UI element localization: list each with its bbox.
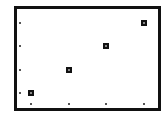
data-point-marker bbox=[66, 67, 72, 73]
x-tick-mark bbox=[143, 103, 145, 105]
plot-frame bbox=[14, 6, 161, 111]
y-tick-mark bbox=[19, 22, 21, 24]
y-tick-mark bbox=[19, 69, 21, 71]
x-tick-mark bbox=[105, 103, 107, 105]
x-tick-mark bbox=[30, 103, 32, 105]
data-point-marker bbox=[141, 20, 147, 26]
data-point-marker bbox=[103, 43, 109, 49]
x-tick-mark bbox=[68, 103, 70, 105]
y-tick-mark bbox=[19, 92, 21, 94]
y-tick-mark bbox=[19, 45, 21, 47]
data-point-marker bbox=[28, 90, 34, 96]
